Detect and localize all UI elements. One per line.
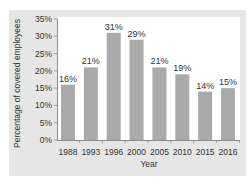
y-axis-title: Percentage of covered employees xyxy=(12,19,22,148)
y-tick-label-10: 10% xyxy=(35,100,52,110)
data-label-2015: 14% xyxy=(196,81,214,91)
data-label-2005: 21% xyxy=(150,56,168,66)
x-tick-label-2000: 2000 xyxy=(127,147,146,157)
y-tick-label-20: 20% xyxy=(35,66,52,76)
data-label-1988: 16% xyxy=(59,74,77,84)
x-axis-title: Year xyxy=(140,159,157,169)
x-tick-label-2005: 2005 xyxy=(150,147,169,157)
bar-1988 xyxy=(61,85,75,140)
data-label-1993: 21% xyxy=(82,56,100,66)
bar-1996 xyxy=(107,33,121,140)
data-label-2000: 29% xyxy=(128,29,146,39)
y-tick-label-35: 35% xyxy=(35,14,52,24)
bar-chart: 16%21%31%29%21%19%14%15% 0%5%10%15%20%25… xyxy=(0,0,251,187)
bar-2015 xyxy=(198,92,212,140)
x-tick-label-2010: 2010 xyxy=(173,147,192,157)
y-tick-label-5: 5% xyxy=(40,118,53,128)
y-tick-label-15: 15% xyxy=(35,83,52,93)
x-tick-label-1988: 1988 xyxy=(59,147,78,157)
data-label-1996: 31% xyxy=(105,22,123,32)
bar-2010 xyxy=(175,74,189,140)
y-tick-label-25: 25% xyxy=(35,49,52,59)
x-tick-label-1996: 1996 xyxy=(104,147,123,157)
x-tick-label-2015: 2015 xyxy=(196,147,215,157)
bar-2005 xyxy=(152,67,166,140)
data-label-2016: 15% xyxy=(219,77,237,87)
bar-2016 xyxy=(221,88,235,140)
x-tick-label-2016: 2016 xyxy=(219,147,238,157)
bar-1993 xyxy=(84,67,98,140)
x-tick-label-1993: 1993 xyxy=(81,147,100,157)
bar-2000 xyxy=(130,40,144,140)
data-label-2010: 19% xyxy=(173,63,191,73)
y-tick-label-30: 30% xyxy=(35,31,52,41)
y-tick-label-0: 0% xyxy=(40,135,53,145)
